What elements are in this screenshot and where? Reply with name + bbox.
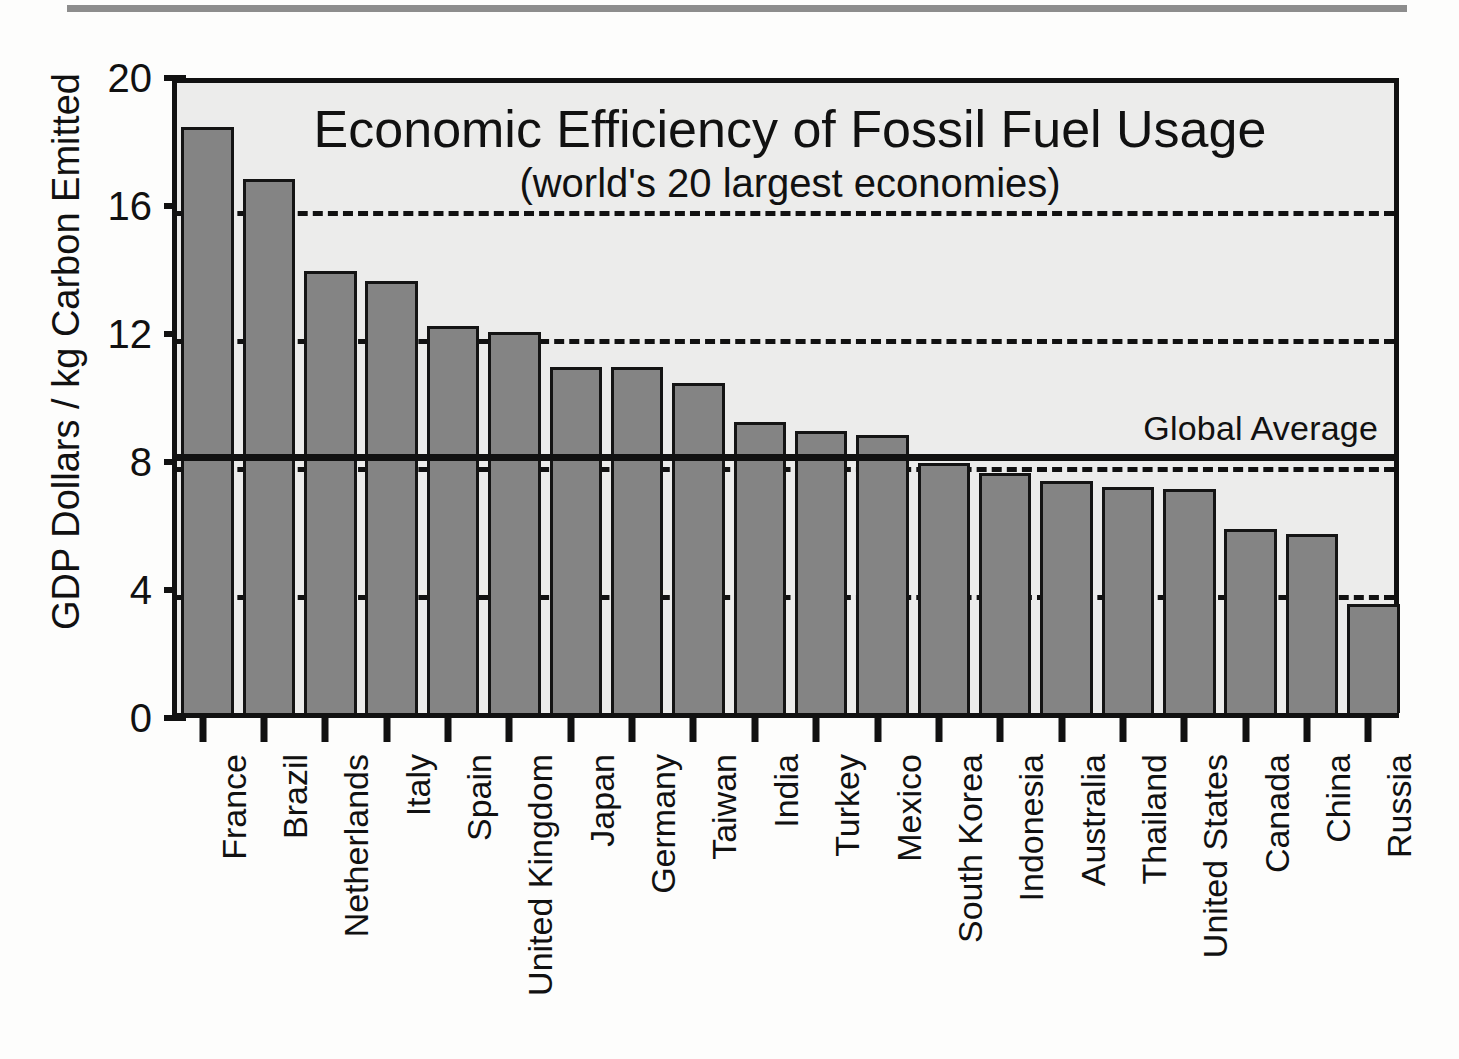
bar-germany (611, 367, 663, 713)
x-axis-label-france: France (215, 754, 254, 860)
x-axis-label-united-states: United States (1196, 754, 1235, 958)
x-tick-mark-2 (322, 718, 329, 742)
bar-thailand (1102, 487, 1154, 713)
x-tick-mark-7 (629, 718, 636, 742)
global-average-line (177, 454, 1394, 461)
bar-australia (1040, 481, 1092, 713)
bar-india (734, 422, 786, 713)
x-axis-label-taiwan: Taiwan (705, 754, 744, 860)
x-axis-label-netherlands: Netherlands (337, 754, 376, 937)
bar-united-states (1163, 489, 1215, 713)
bar-spain (427, 326, 479, 713)
x-axis-label-indonesia: Indonesia (1012, 754, 1051, 901)
x-axis-label-turkey: Turkey (828, 754, 867, 857)
bar-united-kingdom (488, 332, 540, 713)
x-tick-mark-13 (997, 718, 1004, 742)
x-tick-mark-5 (506, 718, 513, 742)
x-tick-mark-0 (199, 718, 206, 742)
x-tick-mark-10 (813, 718, 820, 742)
x-tick-mark-14 (1058, 718, 1065, 742)
x-axis-label-germany: Germany (644, 754, 683, 894)
bar-indonesia (979, 473, 1031, 713)
bar-japan (550, 367, 602, 713)
x-tick-mark-17 (1242, 718, 1249, 742)
bar-series (177, 83, 1394, 713)
x-axis-label-united-kingdom: United Kingdom (521, 754, 560, 996)
bar-south-korea (918, 463, 970, 713)
plot-area: Global Average (172, 78, 1399, 718)
x-axis-label-japan: Japan (583, 754, 622, 847)
global-average-label: Global Average (1143, 409, 1378, 448)
x-axis-label-thailand: Thailand (1135, 754, 1174, 884)
bar-china (1286, 534, 1338, 713)
x-tick-mark-6 (567, 718, 574, 742)
bar-russia (1347, 604, 1399, 713)
bar-taiwan (672, 383, 724, 713)
bar-france (181, 127, 233, 713)
bar-italy (365, 281, 417, 713)
x-tick-mark-18 (1303, 718, 1310, 742)
bar-brazil (243, 179, 295, 713)
x-tick-mark-4 (445, 718, 452, 742)
chart-page: GDP Dollars / kg Carbon Emitted 04812162… (0, 0, 1459, 1059)
page-top-rule (67, 5, 1407, 12)
x-axis-label-russia: Russia (1380, 754, 1419, 858)
x-axis-label-china: China (1319, 754, 1358, 843)
x-tick-mark-8 (690, 718, 697, 742)
x-tick-mark-15 (1119, 718, 1126, 742)
bar-mexico (856, 435, 908, 713)
bar-turkey (795, 431, 847, 713)
x-axis-label-india: India (767, 754, 806, 828)
x-tick-mark-9 (751, 718, 758, 742)
x-tick-mark-12 (935, 718, 942, 742)
x-axis: FranceBrazilNetherlandsItalySpainUnited … (172, 718, 1399, 1048)
x-tick-mark-16 (1181, 718, 1188, 742)
x-axis-label-italy: Italy (399, 754, 438, 816)
x-tick-mark-11 (874, 718, 881, 742)
bar-netherlands (304, 271, 356, 713)
x-tick-mark-19 (1365, 718, 1372, 742)
x-tick-mark-1 (261, 718, 268, 742)
x-tick-mark-3 (383, 718, 390, 742)
x-axis-label-spain: Spain (460, 754, 499, 841)
x-axis-label-brazil: Brazil (276, 754, 315, 839)
x-axis-label-canada: Canada (1258, 754, 1297, 873)
bar-canada (1224, 529, 1276, 713)
x-axis-label-australia: Australia (1074, 754, 1113, 886)
x-axis-label-south-korea: South Korea (951, 754, 990, 943)
x-axis-label-mexico: Mexico (890, 754, 929, 862)
